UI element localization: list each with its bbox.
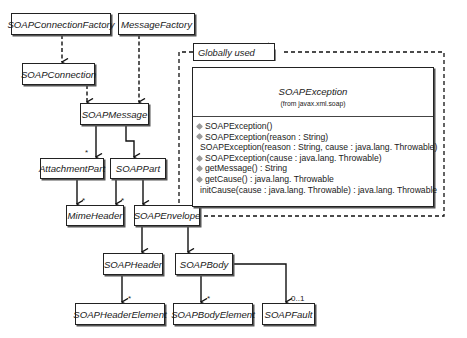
class-soap-message[interactable]: SOAPMessage — [80, 103, 149, 125]
multiplicity-attachment-part: * — [85, 148, 88, 157]
class-message-factory[interactable]: MessageFactory — [118, 13, 195, 35]
package-tab-globally-used[interactable]: Globally used — [193, 43, 275, 61]
multiplicity-soap-body-element: * — [207, 294, 210, 303]
class-soap-envelope[interactable]: SOAPEnvelope — [134, 205, 200, 226]
public-method-icon — [196, 155, 203, 162]
class-soap-body[interactable]: SOAPBody — [175, 253, 233, 275]
class-soap-part[interactable]: SOAPPart — [110, 158, 166, 179]
class-soap-connection-factory[interactable]: SOAPConnectionFactory — [11, 13, 111, 35]
operation-item: SOAPException(reason : String, cause : j… — [197, 142, 433, 153]
class-soap-body-element[interactable]: SOAPBodyElement — [173, 303, 253, 325]
soap-exception-package: (from javax.xml.soap) — [193, 100, 433, 107]
class-soap-exception[interactable]: SOAPException (from javax.xml.soap) SOAP… — [192, 67, 434, 207]
operation-item: SOAPException() — [197, 121, 433, 132]
class-soap-fault[interactable]: SOAPFault — [262, 303, 315, 325]
class-soap-header-element[interactable]: SOAPHeaderElement — [75, 303, 165, 325]
multiplicity-mime-header-b: * — [121, 196, 124, 205]
operation-item: getCause() : java.lang. Throwable — [197, 174, 433, 185]
operation-item: getMessage() : String — [197, 163, 433, 174]
public-method-icon — [195, 146, 199, 150]
multiplicity-soap-header-element: * — [128, 294, 131, 303]
multiplicity-mime-header-a: * — [82, 196, 85, 205]
class-mime-header[interactable]: MimeHeader — [66, 205, 124, 226]
multiplicity-soap-fault: 0..1 — [291, 294, 304, 303]
public-method-icon — [196, 176, 203, 183]
operation-item: SOAPException(reason : String) — [197, 132, 433, 143]
public-method-icon — [195, 188, 199, 192]
public-method-icon — [196, 123, 203, 130]
public-method-icon — [196, 133, 203, 140]
public-method-icon — [196, 165, 203, 172]
operation-item: SOAPException(cause : java.lang. Throwab… — [197, 153, 433, 164]
class-attachment-part[interactable]: AttachmentPart — [40, 158, 104, 179]
soap-exception-header: SOAPException (from javax.xml.soap) — [193, 68, 433, 117]
operation-item: initCause(cause : java.lang. Throwable) … — [197, 185, 433, 196]
class-soap-header[interactable]: SOAPHeader — [103, 253, 163, 275]
soap-exception-operations: SOAPException() SOAPException(reason : S… — [193, 117, 433, 195]
class-soap-connection[interactable]: SOAPConnection — [22, 63, 95, 85]
soap-exception-name: SOAPException — [193, 86, 433, 97]
